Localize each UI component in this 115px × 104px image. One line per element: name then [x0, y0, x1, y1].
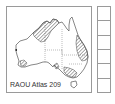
legend-column: [97, 6, 111, 93]
legend-box: [98, 79, 110, 92]
tasmania-outline: [71, 81, 77, 88]
legend-box: [98, 36, 110, 50]
hatch-kimberley: [33, 19, 59, 42]
west-coast-marker: [16, 49, 18, 51]
hatch-wa-south: [20, 60, 27, 66]
atlas-label: RAOU Atlas 209: [10, 81, 61, 88]
legend-box: [98, 21, 110, 35]
legend-box: [98, 50, 110, 64]
australia-map: [7, 7, 91, 92]
legend-box: [98, 7, 110, 21]
hatch-queensland-coast: [76, 35, 88, 61]
map-frame: RAOU Atlas 209: [6, 6, 92, 93]
legend-box: [98, 64, 110, 78]
